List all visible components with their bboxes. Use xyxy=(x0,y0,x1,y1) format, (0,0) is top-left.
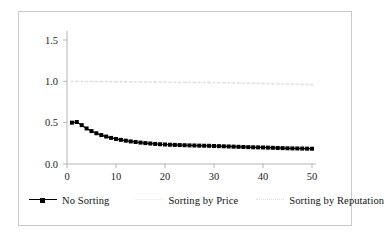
series-point xyxy=(202,144,206,148)
series-point xyxy=(143,141,147,145)
series-point xyxy=(184,81,186,83)
series-point xyxy=(154,81,156,83)
series-point xyxy=(153,142,157,146)
series-point xyxy=(272,83,274,85)
series-point xyxy=(95,81,97,83)
series-point xyxy=(237,145,241,149)
series-point xyxy=(86,81,88,83)
series-point xyxy=(238,82,240,84)
series-point xyxy=(207,144,211,148)
series-point xyxy=(193,81,195,83)
series-point xyxy=(246,145,250,149)
series-point xyxy=(188,143,192,147)
series-point xyxy=(203,82,205,84)
x-tick-label: 20 xyxy=(160,171,171,182)
series-point xyxy=(173,143,177,147)
series-point xyxy=(114,137,118,141)
series-point xyxy=(213,82,215,84)
series-point xyxy=(178,143,182,147)
series-point xyxy=(287,83,289,85)
series-point xyxy=(227,144,231,148)
series-point xyxy=(310,147,314,151)
series-point xyxy=(174,81,176,83)
series-point xyxy=(109,136,113,140)
series-point xyxy=(99,133,103,137)
series-point xyxy=(222,144,226,148)
series-point xyxy=(163,142,167,146)
legend-marker-line-icon xyxy=(135,195,163,205)
series-point xyxy=(90,129,94,133)
series-point xyxy=(94,131,98,135)
series-point xyxy=(252,82,254,84)
series-point xyxy=(267,83,269,85)
series-point xyxy=(217,144,221,148)
series-point xyxy=(301,83,303,85)
y-tick-label: 0.5 xyxy=(45,117,58,128)
series-point xyxy=(271,146,275,150)
series-point xyxy=(306,83,308,85)
series-point xyxy=(125,81,127,83)
series-point xyxy=(197,144,201,148)
x-tick-label: 30 xyxy=(209,171,220,182)
series-point xyxy=(105,81,107,83)
series-point xyxy=(208,82,210,84)
series-point xyxy=(276,146,280,150)
series-point xyxy=(100,81,102,83)
series-point xyxy=(286,146,290,150)
series-point xyxy=(242,82,244,84)
series-point xyxy=(290,146,294,150)
series-point xyxy=(266,146,270,150)
series-point xyxy=(135,81,137,83)
series-point xyxy=(80,123,84,127)
series-point xyxy=(261,145,265,149)
series-point xyxy=(228,82,230,84)
series-point xyxy=(120,81,122,83)
series-point xyxy=(75,120,79,124)
legend-item-no-sorting[interactable]: No Sorting xyxy=(29,188,109,212)
series-point xyxy=(291,83,293,85)
series-point xyxy=(139,141,143,145)
series-point xyxy=(262,82,264,84)
legend-item-sorting-by-price[interactable]: Sorting by Price xyxy=(135,188,238,212)
series-point xyxy=(233,82,235,84)
series-point xyxy=(130,81,132,83)
series-point xyxy=(148,142,152,146)
legend-label-no-sorting: No Sorting xyxy=(62,195,109,206)
series-point xyxy=(140,81,142,83)
series-point xyxy=(110,81,112,83)
x-tick-label: 10 xyxy=(111,171,122,182)
series-point xyxy=(198,81,200,83)
legend-label-sorting-by-price: Sorting by Price xyxy=(168,195,238,206)
series-point xyxy=(300,147,304,151)
y-tick-label: 1.0 xyxy=(45,76,58,87)
series-point xyxy=(223,82,225,84)
chart-frame: 0.00.51.01.501020304050 No Sorting Sorti… xyxy=(18,11,352,226)
series-point xyxy=(212,144,216,148)
series-point xyxy=(81,80,83,82)
series-point xyxy=(144,81,146,83)
legend-item-sorting-by-reputation[interactable]: Sorting by Reputation xyxy=(256,188,384,212)
series-point xyxy=(104,135,108,139)
series-point xyxy=(192,143,196,147)
chart-legend: No Sorting Sorting by Price Sorting by R… xyxy=(19,188,353,212)
y-tick-label: 0.0 xyxy=(45,159,58,170)
series-point xyxy=(129,139,133,143)
x-tick-label: 40 xyxy=(258,171,269,182)
series-point xyxy=(71,81,73,83)
series-point xyxy=(282,83,284,85)
series-point xyxy=(296,83,298,85)
series-point xyxy=(164,81,166,83)
series-point xyxy=(189,81,191,83)
series-point xyxy=(311,84,313,86)
series-point xyxy=(257,82,259,84)
series-point xyxy=(179,81,181,83)
series-point xyxy=(70,121,74,125)
series-point xyxy=(251,145,255,149)
series-point xyxy=(232,145,236,149)
x-tick-label: 50 xyxy=(307,171,318,182)
series-point xyxy=(168,143,172,147)
series-point xyxy=(76,80,78,82)
series-point xyxy=(158,142,162,146)
series-point xyxy=(256,145,260,149)
series-point xyxy=(218,82,220,84)
